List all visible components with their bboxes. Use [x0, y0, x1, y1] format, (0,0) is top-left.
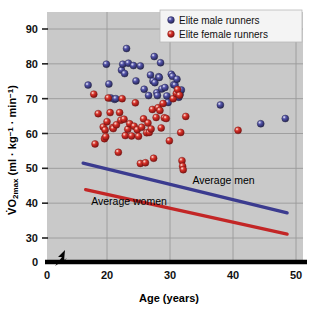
data-point: [132, 77, 139, 84]
data-point: [130, 62, 137, 69]
data-point: [160, 100, 167, 107]
data-point: [95, 110, 102, 117]
data-point-highlight: [149, 127, 151, 129]
data-point-highlight: [148, 73, 150, 75]
y-tick-label: 30: [26, 232, 38, 244]
data-point-highlight: [146, 93, 148, 95]
data-point: [119, 95, 126, 102]
y-tick-label: 80: [26, 58, 38, 70]
data-point-highlight: [104, 62, 106, 64]
data-point-highlight: [133, 101, 135, 103]
data-point-highlight: [121, 62, 123, 64]
data-point-highlight: [236, 128, 238, 130]
y-tick-label: 0: [32, 256, 38, 268]
data-point: [163, 92, 170, 99]
data-point-highlight: [165, 94, 167, 96]
data-point: [151, 53, 158, 60]
data-point: [105, 81, 112, 88]
data-point-highlight: [184, 114, 186, 116]
data-point-highlight: [126, 127, 128, 129]
data-point: [145, 92, 152, 99]
data-point: [123, 45, 130, 52]
data-point: [103, 61, 110, 68]
data-point-highlight: [175, 77, 177, 79]
data-point: [163, 115, 170, 122]
data-point: [156, 107, 163, 114]
data-point: [161, 84, 168, 91]
data-point-highlight: [86, 83, 88, 85]
y-tick-label: 40: [26, 197, 38, 209]
data-point: [235, 127, 242, 134]
data-point: [102, 133, 109, 140]
data-point: [105, 94, 112, 101]
data-point-highlight: [177, 93, 179, 95]
data-point-highlight: [159, 126, 161, 128]
data-point-highlight: [180, 158, 182, 160]
y-tick-label: 50: [26, 162, 38, 174]
data-point-highlight: [150, 107, 152, 109]
data-point-highlight: [283, 116, 285, 118]
data-point-highlight: [128, 122, 130, 124]
x-tick-label: 20: [101, 269, 113, 281]
data-point-highlight: [101, 125, 103, 127]
data-point-highlight: [161, 101, 163, 103]
data-point-highlight: [119, 68, 121, 70]
data-point: [92, 140, 99, 147]
plot-area-background: [47, 12, 303, 264]
data-point: [176, 92, 183, 99]
data-point-highlight: [114, 123, 116, 125]
data-point-highlight: [111, 126, 113, 128]
data-point-highlight: [218, 103, 220, 105]
data-point-highlight: [114, 96, 116, 98]
x-tick-label: 0: [44, 269, 50, 281]
data-point-highlight: [158, 108, 160, 110]
data-point-highlight: [129, 134, 131, 136]
data-point: [107, 109, 114, 116]
data-point-highlight: [138, 161, 140, 163]
y-tick-label: 90: [26, 23, 38, 35]
data-point: [173, 76, 180, 83]
legend-marker-icon: [168, 31, 175, 38]
data-point-highlight: [156, 106, 158, 108]
annotation-average-men: Average men: [192, 174, 254, 186]
data-point: [128, 132, 135, 139]
data-point-highlight: [107, 82, 109, 84]
data-point: [135, 133, 142, 140]
y-tick-label: 60: [26, 128, 38, 140]
data-point: [121, 116, 128, 123]
data-point-highlight: [93, 142, 95, 144]
data-point-highlight: [173, 83, 175, 85]
legend-label[interactable]: Elite female runners: [179, 29, 268, 40]
scatter-plot: 030405060708090020304050 Average menAver…: [0, 0, 310, 311]
data-point-highlight: [171, 96, 173, 98]
data-point-highlight: [116, 150, 118, 152]
data-point-highlight: [138, 64, 140, 66]
data-point-highlight: [124, 46, 126, 48]
data-point-highlight: [140, 125, 142, 127]
data-point-highlight: [175, 87, 177, 89]
data-point: [148, 125, 155, 132]
data-point-highlight: [120, 96, 122, 98]
data-point-highlight: [179, 130, 181, 132]
data-point-highlight: [103, 128, 105, 130]
data-point: [282, 115, 289, 122]
data-point-highlight: [143, 161, 145, 163]
data-point: [141, 86, 148, 93]
data-point-highlight: [122, 117, 124, 119]
data-point-highlight: [123, 133, 125, 135]
data-point: [104, 118, 111, 125]
data-point-highlight: [146, 121, 148, 123]
data-point-highlight: [157, 75, 159, 77]
x-tick-label: 50: [290, 269, 302, 281]
legend-label[interactable]: Elite male runners: [179, 15, 260, 26]
data-point: [257, 120, 264, 127]
data-point: [153, 114, 160, 121]
data-point-highlight: [170, 74, 172, 76]
chart-legend[interactable]: Elite male runnersElite female runners: [160, 10, 302, 42]
data-point: [85, 82, 92, 89]
data-point: [132, 99, 139, 106]
data-point-highlight: [104, 134, 106, 136]
legend-marker-highlight: [169, 18, 171, 20]
annotation-average-women: Average women: [91, 195, 167, 207]
data-point: [158, 124, 165, 131]
